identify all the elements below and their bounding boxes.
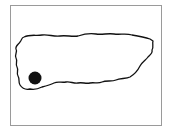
location-marker-icon (29, 72, 42, 85)
island-map (0, 0, 173, 133)
